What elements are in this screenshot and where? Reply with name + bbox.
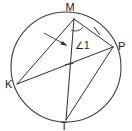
vertex-label-t: T [61,120,68,131]
vertex-label-m: M [65,1,74,13]
tick-mark-on-mp [95,28,100,35]
vertex-label-p: P [118,40,125,52]
geometry-diagram: M P T K ∠1 [0,0,132,131]
chord-kp [17,47,113,84]
pointer-arrowhead-icon [61,41,68,46]
geometry-canvas: M P T K ∠1 [0,0,132,131]
chord-pt [66,47,113,120]
chord-mk [17,19,74,84]
vertex-label-k: K [5,78,13,90]
tick-mark-on-mt [66,64,74,65]
angle-label-1: ∠1 [75,40,90,51]
chord-mt [66,19,74,120]
